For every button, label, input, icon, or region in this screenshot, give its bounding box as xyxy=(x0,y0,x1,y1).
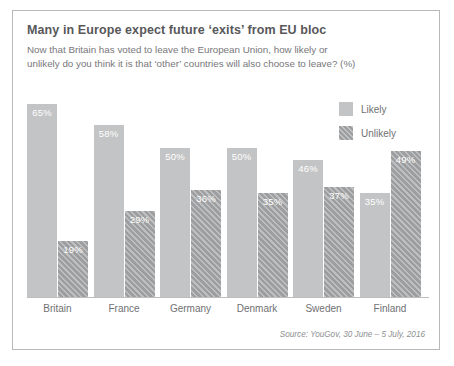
bar-value-label: 46% xyxy=(293,163,323,174)
chart-subtitle: Now that Britain has voted to leave the … xyxy=(27,43,357,71)
bar-group: 50%36% xyxy=(160,89,221,297)
bar-value-label: 35% xyxy=(360,196,390,207)
bar-group: 46%37% xyxy=(293,89,354,297)
bar-unlikely-france[interactable]: 29% xyxy=(125,211,155,297)
x-axis-label-germany: Germany xyxy=(160,303,221,314)
bar-group: 35%49% xyxy=(360,89,421,297)
bar-unlikely-germany[interactable]: 36% xyxy=(191,190,221,297)
bar-value-label: 36% xyxy=(191,193,221,204)
bar-chart-plot-area: 65%19%58%29%50%36%50%35%46%37%35%49% xyxy=(27,89,427,297)
bar-unlikely-sweden[interactable]: 37% xyxy=(324,187,354,297)
bar-value-label: 58% xyxy=(94,128,124,139)
bar-group: 50%35% xyxy=(227,89,288,297)
bar-unlikely-denmark[interactable]: 35% xyxy=(258,193,288,297)
bar-likely-britain[interactable]: 65% xyxy=(27,104,57,297)
bar-likely-france[interactable]: 58% xyxy=(94,125,124,297)
bar-unlikely-finland[interactable]: 49% xyxy=(391,151,421,297)
chart-frame: Many in Europe expect future ‘exits’ fro… xyxy=(12,10,440,350)
bar-value-label: 49% xyxy=(391,154,421,165)
bar-group: 58%29% xyxy=(94,89,155,297)
bar-likely-denmark[interactable]: 50% xyxy=(227,148,257,297)
x-axis-label-britain: Britain xyxy=(27,303,88,314)
x-axis-label-finland: Finland xyxy=(360,303,421,314)
bar-value-label: 65% xyxy=(27,107,57,118)
bar-value-label: 29% xyxy=(125,214,155,225)
x-axis-labels: BritainFranceGermanyDenmarkSwedenFinland xyxy=(27,303,427,321)
bar-likely-finland[interactable]: 35% xyxy=(360,193,390,297)
bar-likely-germany[interactable]: 50% xyxy=(160,148,190,297)
bar-value-label: 19% xyxy=(58,244,88,255)
bar-value-label: 50% xyxy=(227,151,257,162)
x-axis-label-sweden: Sweden xyxy=(293,303,354,314)
chart-title: Many in Europe expect future ‘exits’ fro… xyxy=(27,23,326,37)
bar-value-label: 37% xyxy=(324,190,354,201)
x-axis-label-france: France xyxy=(94,303,155,314)
bar-group: 65%19% xyxy=(27,89,88,297)
chart-source-note: Source: YouGov, 30 June – 5 July, 2016 xyxy=(280,330,425,339)
bar-value-label: 35% xyxy=(258,196,288,207)
bar-unlikely-britain[interactable]: 19% xyxy=(58,241,88,297)
bar-likely-sweden[interactable]: 46% xyxy=(293,160,323,297)
bar-value-label: 50% xyxy=(160,151,190,162)
chart-baseline-axis xyxy=(27,297,429,298)
x-axis-label-denmark: Denmark xyxy=(227,303,288,314)
